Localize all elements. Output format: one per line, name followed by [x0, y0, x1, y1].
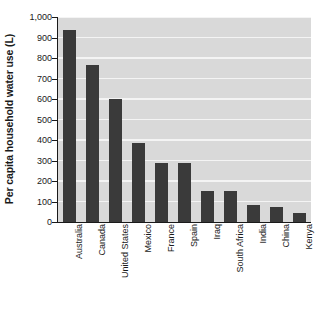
y-axis-tick-labels: 1,0009008007006005004003002001000	[18, 0, 52, 238]
bar[interactable]	[132, 143, 144, 222]
bar[interactable]	[178, 163, 190, 222]
y-axis-title: Per capita household water use (L)	[0, 0, 18, 238]
x-axis-tick-label: Canada	[97, 224, 107, 256]
y-axis-tick-label: 100	[18, 197, 52, 206]
bar[interactable]	[201, 191, 213, 222]
x-axis-tick-label: Kenya	[304, 224, 314, 250]
bar-chart: Per capita household water use (L) 1,000…	[0, 0, 323, 312]
bar[interactable]	[293, 213, 305, 222]
bar[interactable]	[63, 30, 75, 222]
bar[interactable]	[86, 65, 98, 222]
y-axis-tick-label: 500	[18, 115, 52, 124]
y-axis-tick-label: 200	[18, 177, 52, 186]
y-axis-tick-label: 1,000	[18, 13, 52, 22]
y-axis-tick-label: 900	[18, 33, 52, 42]
x-axis-tick-label: Iraq	[212, 224, 222, 240]
y-axis-tick-label: 400	[18, 136, 52, 145]
x-axis-tick-label: France	[166, 224, 176, 252]
bars-layer	[58, 17, 311, 222]
y-axis-tick-label: 700	[18, 74, 52, 83]
x-axis-tick-label: China	[281, 224, 291, 248]
x-axis-tick-label: Mexico	[143, 224, 153, 253]
x-axis-tick-label: Spain	[189, 224, 199, 247]
bar[interactable]	[247, 205, 259, 222]
x-axis-tick-label: India	[258, 224, 268, 244]
x-axis-tick-labels: AustraliaCanadaUnited StatesMexicoFrance…	[58, 224, 311, 312]
bar[interactable]	[270, 207, 282, 222]
bar[interactable]	[224, 191, 236, 222]
x-axis-tick-label: South Africa	[235, 224, 245, 273]
y-axis-tick-label: 300	[18, 156, 52, 165]
x-axis-line	[57, 222, 311, 223]
x-axis-tick-label: United States	[120, 224, 130, 278]
y-axis-title-text: Per capita household water use (L)	[3, 34, 15, 204]
bar[interactable]	[155, 163, 167, 222]
y-axis-tick-label: 0	[18, 218, 52, 227]
y-axis-tick-label: 800	[18, 54, 52, 63]
x-axis-tick-label: Australia	[74, 224, 84, 259]
bar[interactable]	[109, 99, 121, 222]
y-axis-tick-label: 600	[18, 95, 52, 104]
